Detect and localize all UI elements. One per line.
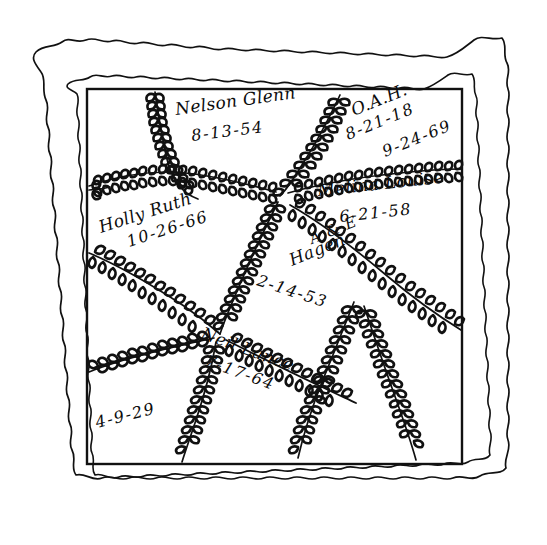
quilt-inscriptions: Nelson Glenn 8-13-54 O.A.H. 8-21-18 9-24… (92, 79, 454, 432)
vine-center-down-diagonal (214, 202, 285, 334)
inscription-nelson-glenn: Nelson Glenn 8-13-54 (173, 82, 297, 145)
quilt-illustration: Nelson Glenn 8-13-54 O.A.H. 8-21-18 9-24… (0, 0, 547, 545)
vine-bottom-v-right (356, 306, 423, 460)
quilt-drawing-canvas: Nelson Glenn 8-13-54 O.A.H. 8-21-18 9-24… (0, 0, 547, 545)
inscription-name: Melina Louise (315, 167, 444, 200)
inscription-oah: O.A.H. 8-21-18 9-24-69 (342, 79, 454, 161)
inscription-date: 4-9-29 (92, 399, 157, 432)
vine-lower-left-horizontal (88, 332, 214, 372)
vine-left-lower-diagonal (89, 246, 220, 334)
inscription-name: Nelson Glenn (173, 82, 297, 119)
vine-left-edge-stub (89, 181, 110, 199)
inscription-bottom-left-date: 4-9-29 (92, 399, 157, 432)
inscription-date: 2-14-53 (254, 270, 330, 311)
inscription-date: 8-13-54 (190, 117, 265, 145)
